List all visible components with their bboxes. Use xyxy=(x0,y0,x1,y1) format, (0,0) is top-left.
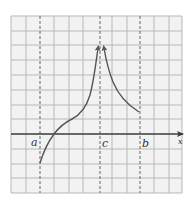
graph-figure: a c b x xyxy=(0,0,192,199)
label-a: a xyxy=(31,136,38,149)
x-axis-label: x xyxy=(178,137,183,146)
graph-svg: a c b x xyxy=(0,0,192,199)
label-b: b xyxy=(142,137,149,150)
label-c: c xyxy=(102,137,108,150)
